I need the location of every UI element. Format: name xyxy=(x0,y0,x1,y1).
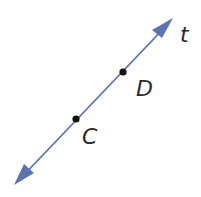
line-diagram: t D C xyxy=(0,0,201,197)
point-d xyxy=(119,68,126,75)
line-label-t: t xyxy=(180,22,190,47)
line-t xyxy=(20,25,167,179)
point-c xyxy=(72,115,79,122)
point-label-d: D xyxy=(136,76,153,101)
point-label-c: C xyxy=(82,124,98,149)
diagram-canvas: t D C xyxy=(0,0,201,197)
arrowhead-upper-icon xyxy=(152,18,173,38)
